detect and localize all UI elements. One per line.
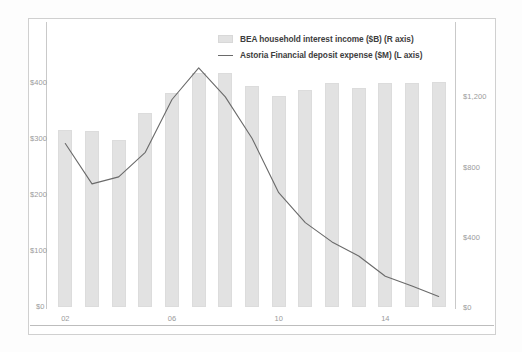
bar-swatch-icon [218,35,233,43]
bar-02 [58,130,72,307]
bar-11 [298,90,312,307]
right-axis-tick-0: $0 [463,303,507,312]
bar-09 [245,86,259,307]
x-axis-tick-06: 06 [158,314,186,323]
bar-06 [165,93,179,307]
x-axis-tick-02: 02 [51,314,79,323]
bar-15 [405,83,419,307]
left-axis-tick-400: $400 [30,78,64,87]
bar-08 [218,73,232,307]
right-axis-tick-400: $400 [463,233,507,242]
right-axis-tick-1200: $1,200 [463,92,507,101]
bar-13 [352,88,366,307]
legend-item-astoria: Astoria Financial deposit expense ($M) (… [218,49,458,61]
legend-label-bea: BEA household interest income ($B) (R ax… [240,34,414,44]
bar-12 [325,83,339,307]
chart-container: $400 $300 $200 $100 $0 $1,200 $800 $400 … [0,0,522,352]
legend-item-bea: BEA household interest income ($B) (R ax… [218,33,458,45]
bar-14 [378,83,392,307]
bottom-axis-line [30,325,494,326]
bar-03 [85,131,99,307]
chart-legend: BEA household interest income ($B) (R ax… [218,33,458,65]
x-axis-tick-10: 10 [265,314,293,323]
bar-07 [192,73,206,307]
legend-label-astoria: Astoria Financial deposit expense ($M) (… [240,50,422,60]
right-axis-tick-800: $800 [463,163,507,172]
bar-16 [432,82,446,307]
x-axis-tick-14: 14 [371,314,399,323]
bar-10 [272,96,286,307]
bar-05 [138,113,152,307]
left-axis-line [46,22,47,309]
line-swatch-icon [218,55,233,56]
right-axis-line [455,22,456,309]
bar-04 [112,140,126,307]
